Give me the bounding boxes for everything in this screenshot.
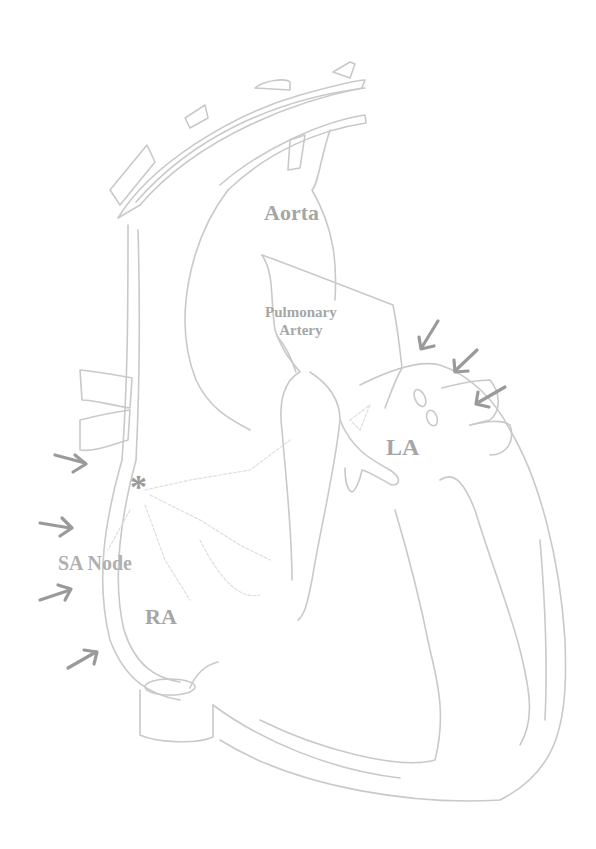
aorta-label: Aorta: [264, 202, 319, 224]
superior-vena-cava: [110, 62, 365, 460]
aorta: [185, 115, 366, 430]
sa-node-marker: *: [130, 470, 147, 504]
right-atrium-label: RA: [145, 606, 177, 628]
left-atrium-label: LA: [386, 435, 419, 459]
arrow-icon: [454, 350, 477, 372]
pulmonary-artery-label: Pulmonary Artery: [265, 303, 337, 339]
arrow-icon: [40, 518, 72, 536]
pulmonary-artery-label-line2: Artery: [265, 321, 337, 339]
conduction-pathways: [108, 405, 370, 600]
arrow-icon: [68, 650, 97, 668]
arrow-icon: [55, 455, 86, 472]
sa-node-label: SA Node: [58, 553, 132, 573]
pulmonary-artery-label-line1: Pulmonary: [265, 303, 337, 321]
arrow-icon: [40, 585, 71, 600]
arrow-icon: [419, 321, 438, 349]
heart-diagram: [0, 0, 596, 849]
ventricles: [260, 372, 546, 763]
left-atrium: [220, 364, 566, 801]
